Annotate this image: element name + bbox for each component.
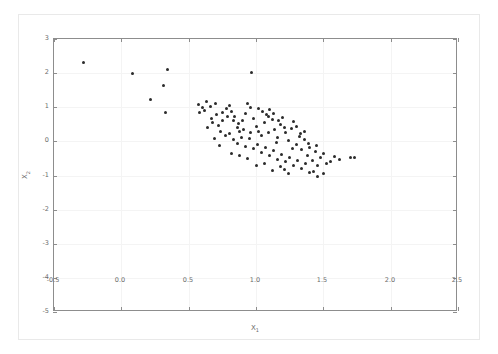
scatter-point xyxy=(209,105,212,108)
scatter-point xyxy=(244,112,247,115)
scatter-point xyxy=(82,61,85,64)
x-axis-label: X1 xyxy=(251,324,259,333)
scatter-point xyxy=(311,159,314,162)
x-tick-mark xyxy=(256,307,257,311)
scatter-point xyxy=(292,120,295,123)
scatter-point xyxy=(131,72,134,75)
y-axis-label-base: X xyxy=(21,174,29,179)
scatter-point xyxy=(322,152,325,155)
y-tick-mark xyxy=(453,312,457,313)
scatter-point xyxy=(268,154,271,157)
y-tick-label: -2 xyxy=(43,205,49,213)
x-tick-mark xyxy=(121,38,122,42)
scatter-point xyxy=(284,131,287,134)
scatter-point xyxy=(308,146,311,149)
scatter-point xyxy=(149,98,152,101)
gridline-vertical xyxy=(256,39,257,310)
scatter-point xyxy=(214,102,217,105)
y-tick-label: 0 xyxy=(45,136,49,144)
scatter-point xyxy=(275,141,278,144)
x-tick-mark xyxy=(391,38,392,42)
plot-axes-area xyxy=(53,38,457,311)
y-tick-label: -4 xyxy=(43,273,49,281)
y-tick-mark xyxy=(453,39,457,40)
y-tick-label: 3 xyxy=(45,34,49,42)
gridline-horizontal xyxy=(54,107,456,108)
gridline-vertical xyxy=(189,39,190,310)
scatter-point xyxy=(240,136,243,139)
x-tick-mark xyxy=(391,307,392,311)
y-axis-label-subscript: 2 xyxy=(25,171,31,174)
scatter-point xyxy=(277,119,280,122)
y-tick-mark xyxy=(53,312,57,313)
x-tick-mark xyxy=(323,307,324,311)
scatter-point xyxy=(261,110,264,113)
scatter-point xyxy=(298,135,301,138)
x-tick-mark xyxy=(458,38,459,42)
y-tick-label: -3 xyxy=(43,239,49,247)
gridline-horizontal xyxy=(54,176,456,177)
scatter-point xyxy=(316,164,319,167)
scatter-point xyxy=(303,130,306,133)
x-tick-mark xyxy=(256,38,257,42)
scatter-point xyxy=(236,126,239,129)
scatter-point xyxy=(221,111,224,114)
scatter-point xyxy=(236,142,239,145)
scatter-point xyxy=(273,128,276,131)
scatter-point xyxy=(228,132,231,135)
scatter-point xyxy=(230,110,233,113)
scatter-point xyxy=(233,115,236,118)
y-tick-mark xyxy=(453,244,457,245)
y-tick-mark xyxy=(53,244,57,245)
scatter-point xyxy=(164,111,167,114)
gridline-vertical xyxy=(121,39,122,310)
scatter-plot-figure: -0.50.00.51.01.52.02.5 -5-4-3-2-10123 X1… xyxy=(0,0,498,354)
scatter-point xyxy=(257,130,260,133)
scatter-point xyxy=(166,68,169,71)
scatter-point xyxy=(206,126,209,129)
scatter-point xyxy=(244,145,247,148)
scatter-point xyxy=(217,124,220,127)
scatter-point xyxy=(232,119,235,122)
y-tick-label: 2 xyxy=(45,68,49,76)
scatter-point xyxy=(256,143,259,146)
scatter-point xyxy=(211,121,214,124)
scatter-point xyxy=(238,154,241,157)
scatter-point xyxy=(248,137,251,140)
y-tick-mark xyxy=(53,73,57,74)
y-tick-mark xyxy=(53,39,57,40)
x-tick-mark xyxy=(189,38,190,42)
y-tick-mark xyxy=(453,107,457,108)
scatter-point xyxy=(242,128,245,131)
scatter-point xyxy=(312,170,315,173)
scatter-point xyxy=(306,154,309,157)
scatter-point xyxy=(283,168,286,171)
scatter-point xyxy=(249,106,252,109)
scatter-point xyxy=(255,164,258,167)
scatter-point xyxy=(315,144,318,147)
scatter-point xyxy=(292,164,295,167)
scatter-point xyxy=(255,125,258,128)
scatter-point xyxy=(300,167,303,170)
scatter-point xyxy=(264,146,267,149)
scatter-point xyxy=(281,116,284,119)
x-tick-label: 2.5 xyxy=(452,276,462,284)
scatter-point xyxy=(224,134,227,137)
scatter-point xyxy=(279,165,282,168)
scatter-point xyxy=(210,117,213,120)
scatter-point xyxy=(228,104,231,107)
scatter-point xyxy=(272,112,275,115)
scatter-point xyxy=(279,123,282,126)
scatter-point xyxy=(219,130,222,133)
gridline-vertical xyxy=(391,39,392,310)
scatter-point xyxy=(252,147,255,150)
scatter-point xyxy=(296,159,299,162)
scatter-point xyxy=(232,138,235,141)
x-axis-label-subscript: 1 xyxy=(256,327,259,333)
scatter-point xyxy=(205,100,208,103)
scatter-point xyxy=(271,118,274,121)
scatter-point xyxy=(213,137,216,140)
x-tick-mark xyxy=(121,307,122,311)
scatter-point xyxy=(271,169,274,172)
x-tick-mark xyxy=(54,307,55,311)
